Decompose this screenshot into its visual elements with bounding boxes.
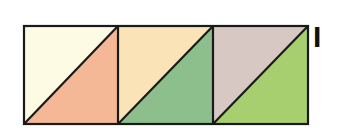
half-square-triangles-diagram (0, 0, 340, 128)
figure-label: I (313, 22, 321, 52)
